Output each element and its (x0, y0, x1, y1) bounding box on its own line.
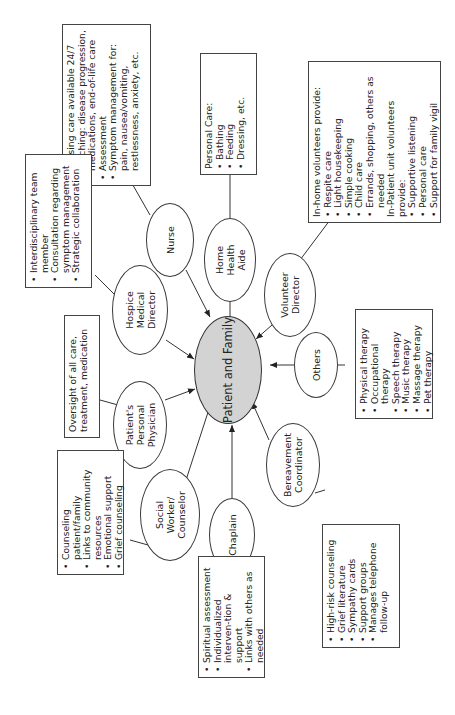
others-label: Others (311, 349, 322, 381)
patient-family-node: Patient and Family (194, 316, 262, 424)
details-heading: In-Patient unit volunteers provide: (386, 67, 407, 217)
hospice-medical-director-label: Hospice Medical Director (124, 285, 157, 335)
list-item: Interdisciplinary team member (29, 160, 50, 282)
hospice-medical-director-node: Hospice Medical Director (112, 265, 168, 355)
list-item: Counseling patient/family (61, 456, 82, 569)
list-item: Links with others as needed (244, 562, 265, 672)
list-item: Errands, shopping, others as needed (365, 67, 386, 217)
social-worker-node: Social Worker/ Counselor (140, 469, 200, 561)
list-item: Massage therapy (412, 315, 423, 413)
personal-physician-label: Patient's Personal Physician (124, 398, 157, 453)
list-item: Pet therapy (423, 315, 434, 413)
others-node: Others (294, 332, 338, 398)
home-health-aide-details-box: Personal Care: Bathing Feeding Dressing,… (200, 53, 257, 175)
volunteer-director-label: Volunteer Director (279, 268, 301, 323)
volunteer-details-box: In-home volunteers provide: Respite care… (308, 61, 441, 223)
list-item: Dressing, etc. (236, 59, 247, 169)
chaplain-label: Chaplain (227, 514, 238, 556)
home-health-aide-node: Home Health Aide (204, 218, 256, 302)
volunteer-director-node: Volunteer Director (264, 253, 316, 337)
home-health-aide-label: Home Health Aide (214, 233, 247, 288)
chaplain-details-box: Spiritual assessment Individualized inte… (198, 556, 265, 678)
list-item: High-risk counseling (326, 530, 337, 642)
details-text: Oversight of all care, treatment, medica… (67, 329, 89, 432)
list-item: Physical therapy (359, 315, 370, 413)
list-item: Personal care (418, 67, 429, 217)
list-item: Individualized interven-tion & support (213, 562, 245, 672)
list-item: Grief counseling (114, 456, 125, 569)
list-item: Manages telephone follow-up (368, 530, 389, 642)
bereavement-coordinator-label: Bereavement Coordinator (282, 432, 304, 498)
list-item: Support for family vigil (429, 67, 440, 217)
nurse-label: Nurse (165, 226, 176, 254)
list-item: Occupational therapy (370, 315, 391, 413)
list-item: Strategic collaboration (71, 160, 82, 282)
hospice-medical-director-details-box: Interdisciplinary team member Consultati… (25, 154, 92, 288)
details-heading: In-home volunteers provide: (312, 67, 323, 217)
details-heading: Personal Care: (204, 59, 215, 169)
list-item: Links to community resources (82, 456, 103, 569)
bereavement-coordinator-node: Bereavement Coordinator (266, 423, 320, 507)
social-worker-details-box: Counseling patient/family Links to commu… (57, 450, 124, 575)
care-team-diagram: Patient and Family Nurse Home Health Aid… (0, 0, 455, 715)
list-item: Spiritual assessment (202, 562, 213, 672)
list-item: Consultation regarding symptom managemen… (50, 160, 71, 282)
social-worker-label: Social Worker/ Counselor (154, 488, 187, 543)
nurse-node: Nurse (146, 203, 194, 277)
patient-family-label: Patient and Family (221, 317, 235, 423)
list-item: Symptom management for: pain, nausea/vom… (108, 30, 140, 180)
others-details-box: Physical therapy Occupational therapy Sp… (355, 309, 433, 419)
bereavement-details-box: High-risk counseling Grief literature Sy… (322, 524, 400, 648)
physician-details-box: Oversight of all care, treatment, medica… (64, 315, 100, 438)
